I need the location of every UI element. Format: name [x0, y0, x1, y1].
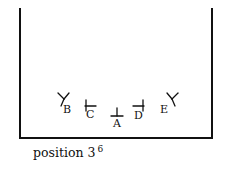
marker-label-e: E — [160, 104, 168, 115]
container-bottom-wall — [19, 137, 213, 139]
marker-label-b: B — [63, 104, 71, 115]
marker-label-a: A — [113, 118, 121, 129]
container-right-wall — [211, 8, 213, 139]
marker-label-c: C — [86, 109, 94, 120]
marker-e — [166, 92, 188, 110]
figure-canvas: B C A D — [0, 0, 231, 172]
container-left-wall — [19, 8, 21, 139]
marker-label-d: D — [134, 110, 143, 121]
caption-text: position 3 — [33, 145, 95, 160]
caption-superscript: 6 — [97, 144, 103, 154]
figure-caption: position 36 — [33, 145, 103, 160]
